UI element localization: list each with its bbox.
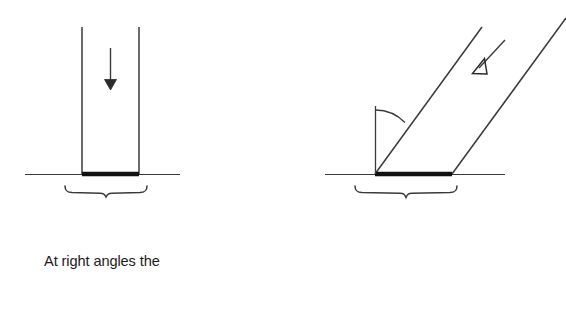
beam-direction-arrow (105, 48, 117, 90)
area-width-brace (355, 186, 457, 198)
caption-line: beam of rays covers (44, 316, 174, 319)
left-caption: At right angles the beam of rays covers … (44, 208, 174, 319)
beam-ray-left (375, 27, 482, 174)
beam-ray-right (452, 18, 566, 174)
beam-direction-arrow (473, 40, 506, 74)
right-angle-beam-panel: At right angles the beam of rays covers … (0, 0, 283, 319)
area-width-brace (65, 186, 147, 197)
incidence-angle-arc (376, 110, 406, 123)
oblique-angle-beam-diagram (283, 0, 566, 205)
caption-line: At right angles the (44, 251, 174, 273)
right-angle-beam-diagram (0, 0, 283, 205)
figure-root: At right angles the beam of rays covers … (0, 0, 566, 319)
oblique-angle-beam-panel: At this angle the same width of beam cov… (283, 0, 566, 319)
